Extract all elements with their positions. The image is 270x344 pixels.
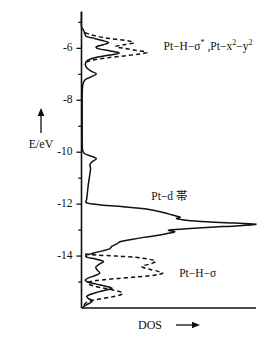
dos-curve-pt-h-sigma-dashed: [84, 254, 163, 305]
y-tick-label: -8: [63, 93, 73, 105]
dos-arrow-head-icon: [192, 322, 200, 328]
y-tick-label: -14: [57, 249, 73, 261]
pt-h-sigma-star-label-run: 2: [248, 38, 252, 47]
dos-figure: -6-8-10-12-14 Pt−H−σ* ,Pt−x2−y2Pt−d 帯Pt−…: [0, 0, 270, 344]
pt-h-sigma-label: Pt−H−σ: [179, 267, 217, 279]
pt-h-sigma-star-label-run: −y: [236, 40, 248, 53]
pt-d-band-label-run: Pt−d 帯: [151, 190, 187, 202]
y-tick-label: -12: [57, 197, 73, 209]
dos-curve-total-dos-solid: [81, 12, 256, 308]
pt-h-sigma-star-label: Pt−H−σ* ,Pt−x2−y2: [164, 38, 253, 53]
energy-arrow-head-icon: [38, 108, 45, 116]
y-tick-label: -10: [57, 145, 73, 157]
pt-h-sigma-label-run: Pt−H−σ: [179, 267, 217, 279]
dos-curves: [81, 12, 256, 308]
dos-axis-label: DOS: [138, 318, 162, 332]
dos-axis-label-group: DOS: [138, 318, 200, 332]
dos-plot-svg: -6-8-10-12-14 Pt−H−σ* ,Pt−x2−y2Pt−d 帯Pt−…: [0, 0, 270, 344]
energy-axis-label-group: E/eV: [29, 108, 54, 151]
curve-annotations: Pt−H−σ* ,Pt−x2−y2Pt−d 帯Pt−H−σ: [151, 38, 252, 279]
pt-h-sigma-star-label-run: ,Pt−x: [205, 40, 233, 53]
axis-tick-labels: -6-8-10-12-14: [57, 41, 73, 261]
pt-d-band-label: Pt−d 帯: [151, 190, 187, 202]
y-tick-label: -6: [63, 41, 73, 53]
energy-axis-label: E/eV: [29, 137, 54, 151]
pt-h-sigma-star-label-run: Pt−H−σ: [164, 40, 202, 52]
